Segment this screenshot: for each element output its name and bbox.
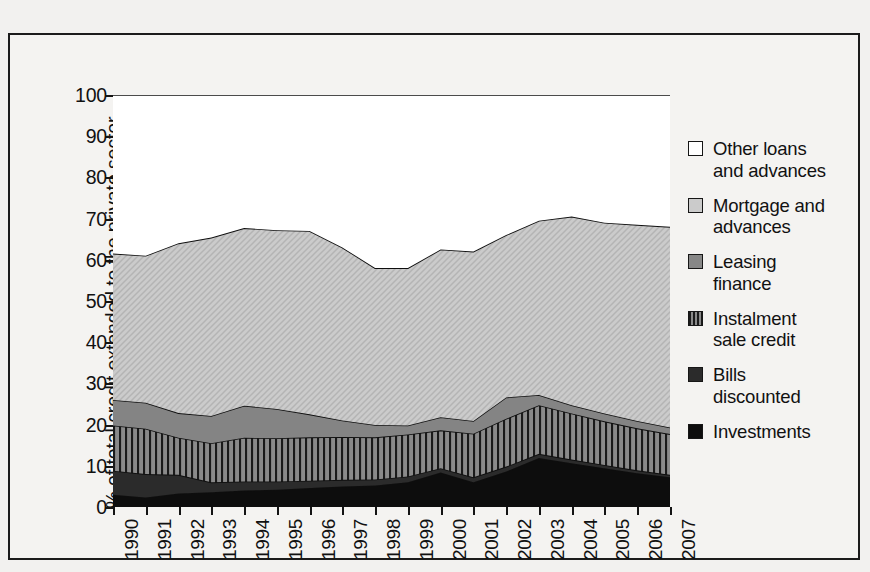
x-tick-label-2004: 2004 xyxy=(580,519,602,560)
y-tick-label-20: 20 xyxy=(61,413,107,436)
hatched-swatch xyxy=(688,311,703,326)
legend-label-line2: advances xyxy=(713,216,825,238)
y-tick-label-100: 100 xyxy=(61,84,107,107)
figure-canvas: % of total credit extended to the privat… xyxy=(0,0,870,572)
x-tick-mark-2001 xyxy=(473,507,475,515)
x-tick-mark-2003 xyxy=(539,507,541,515)
x-tick-mark-1991 xyxy=(146,507,148,515)
y-tick-label-70: 70 xyxy=(61,207,107,230)
dark-gray-swatch xyxy=(688,367,703,382)
x-tick-mark-2002 xyxy=(506,507,508,515)
y-tick-label-90: 90 xyxy=(61,125,107,148)
legend-label: Investments xyxy=(713,421,811,443)
y-tick-mark-100 xyxy=(105,95,113,97)
legend-label-line1: Investments xyxy=(713,421,811,443)
legend-label: Instalmentsale credit xyxy=(713,308,796,351)
x-tick-mark-1990 xyxy=(113,507,115,515)
y-tick-label-40: 40 xyxy=(61,331,107,354)
legend-item-mortgage-and[interactable]: Mortgage andadvances xyxy=(688,195,864,238)
y-tick-mark-40 xyxy=(105,342,113,344)
x-tick-mark-1995 xyxy=(277,507,279,515)
x-tick-mark-1998 xyxy=(375,507,377,515)
chart-legend: Other loansand advancesMortgage andadvan… xyxy=(688,138,864,456)
x-tick-label-1990: 1990 xyxy=(121,519,143,560)
y-tick-label-30: 30 xyxy=(61,372,107,395)
legend-item-instalment[interactable]: Instalmentsale credit xyxy=(688,308,864,351)
figure-border: % of total credit extended to the privat… xyxy=(8,33,860,560)
y-tick-mark-0 xyxy=(105,507,113,509)
x-tick-label-1996: 1996 xyxy=(318,519,340,560)
y-tick-mark-80 xyxy=(105,177,113,179)
legend-label: Mortgage andadvances xyxy=(713,195,825,238)
legend-label: Billsdiscounted xyxy=(713,364,800,407)
x-tick-mark-1992 xyxy=(179,507,181,515)
y-tick-label-60: 60 xyxy=(61,248,107,271)
legend-item-investments[interactable]: Investments xyxy=(688,421,864,443)
y-tick-mark-20 xyxy=(105,425,113,427)
x-tick-label-1999: 1999 xyxy=(416,519,438,560)
y-tick-mark-10 xyxy=(105,466,113,468)
y-tick-mark-90 xyxy=(105,136,113,138)
legend-label: Leasingfinance xyxy=(713,251,776,294)
legend-label-line1: Other loans xyxy=(713,138,826,160)
x-tick-label-1994: 1994 xyxy=(252,519,274,560)
x-tick-label-2006: 2006 xyxy=(645,519,667,560)
x-tick-label-1991: 1991 xyxy=(154,519,176,560)
x-tick-mark-2005 xyxy=(604,507,606,515)
x-tick-label-1992: 1992 xyxy=(187,519,209,560)
light-gray-swatch xyxy=(688,198,703,213)
legend-label-line1: Leasing xyxy=(713,251,776,273)
x-tick-mark-2007 xyxy=(670,507,672,515)
legend-item-other-loans[interactable]: Other loansand advances xyxy=(688,138,864,181)
legend-label-line2: sale credit xyxy=(713,329,796,351)
y-tick-mark-60 xyxy=(105,260,113,262)
x-tick-label-2003: 2003 xyxy=(547,519,569,560)
x-tick-label-1993: 1993 xyxy=(219,519,241,560)
mid-gray-swatch xyxy=(688,254,703,269)
black-swatch xyxy=(688,424,703,439)
x-tick-mark-1994 xyxy=(244,507,246,515)
y-tick-mark-30 xyxy=(105,383,113,385)
x-tick-label-2001: 2001 xyxy=(481,519,503,560)
x-tick-mark-1999 xyxy=(408,507,410,515)
y-tick-mark-70 xyxy=(105,219,113,221)
x-tick-mark-1996 xyxy=(310,507,312,515)
y-tick-label-80: 80 xyxy=(61,166,107,189)
white-swatch xyxy=(688,141,703,156)
x-tick-label-1997: 1997 xyxy=(350,519,372,560)
legend-item-leasing[interactable]: Leasingfinance xyxy=(688,251,864,294)
y-tick-label-10: 10 xyxy=(61,454,107,477)
x-tick-label-1998: 1998 xyxy=(383,519,405,560)
y-tick-label-50: 50 xyxy=(61,290,107,313)
y-tick-label-0: 0 xyxy=(61,496,107,519)
legend-label-line1: Instalment xyxy=(713,308,796,330)
legend-label-line2: finance xyxy=(713,273,776,295)
x-tick-mark-1997 xyxy=(342,507,344,515)
plot-area: % of total credit extended to the privat… xyxy=(113,95,670,507)
x-tick-mark-2006 xyxy=(637,507,639,515)
legend-label-line1: Mortgage and xyxy=(713,195,825,217)
x-tick-mark-2004 xyxy=(572,507,574,515)
y-tick-mark-50 xyxy=(105,301,113,303)
x-tick-label-2007: 2007 xyxy=(678,519,700,560)
legend-label-line2: discounted xyxy=(713,386,800,408)
legend-label-line1: Bills xyxy=(713,364,800,386)
legend-item-bills[interactable]: Billsdiscounted xyxy=(688,364,864,407)
x-tick-label-2005: 2005 xyxy=(612,519,634,560)
x-tick-label-1995: 1995 xyxy=(285,519,307,560)
legend-label-line2: and advances xyxy=(713,160,826,182)
x-tick-mark-1993 xyxy=(211,507,213,515)
x-tick-label-2002: 2002 xyxy=(514,519,536,560)
x-tick-mark-2000 xyxy=(441,507,443,515)
legend-label: Other loansand advances xyxy=(713,138,826,181)
x-tick-label-2000: 2000 xyxy=(449,519,471,560)
stacked-area-chart xyxy=(113,95,670,507)
